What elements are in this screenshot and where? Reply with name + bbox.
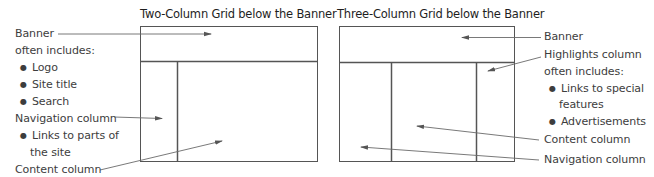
two-column-grid-outline (140, 27, 318, 162)
three-column-grid-outline (339, 27, 515, 162)
bullet-links-continuation: the site (30, 146, 71, 159)
right-content-column-label: Content column (544, 133, 630, 146)
right-often-includes-label: often includes: (544, 65, 624, 78)
highlights-column-label: Highlights column (544, 48, 642, 61)
right-navigation-column-label: Navigation column (544, 153, 646, 166)
two-column-title: Two-Column Grid below the Banner (140, 7, 337, 21)
bullet-features-continuation: features (559, 98, 604, 111)
right-banner-label: Banner (544, 30, 583, 43)
bullet-links-to-special: Links to special (549, 82, 644, 96)
often-includes-label: often includes: (15, 44, 95, 57)
three-column-title: Three-Column Grid below the Banner (337, 7, 544, 21)
bullet-search: Search (20, 95, 69, 109)
bullet-links-to-parts: Links to parts of (20, 129, 119, 143)
content-column-label: Content column (15, 163, 101, 176)
bullet-site-title: Site title (20, 78, 77, 92)
bullet-logo: Logo (20, 61, 58, 75)
bullet-advertisements: Advertisements (549, 115, 646, 129)
banner-label: Banner (15, 27, 54, 40)
navigation-column-label: Navigation column (15, 112, 117, 125)
